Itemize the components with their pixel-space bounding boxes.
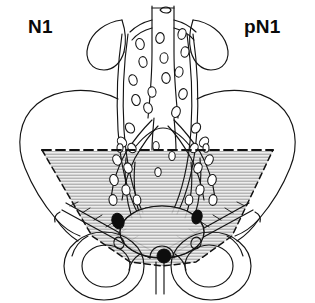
pelvic-lymph-node-figure: N1 pN1	[0, 0, 315, 303]
stage-label-pn1: pN1	[244, 17, 281, 36]
paraaortic-node-chain	[128, 28, 190, 119]
kidney-right	[190, 20, 228, 70]
anatomy-line-art	[0, 0, 315, 303]
midline-metastatic-node	[157, 249, 171, 263]
stage-label-n1: N1	[28, 17, 53, 36]
kidney-left	[87, 20, 125, 70]
